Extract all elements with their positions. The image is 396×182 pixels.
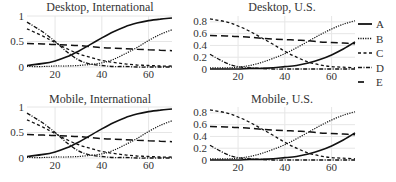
y-tick-label: 1: [19, 10, 25, 22]
panel-1: Desktop, International20406000.51: [10, 0, 172, 80]
panel-title: Desktop, International: [46, 0, 154, 14]
series-B-line: [210, 112, 355, 159]
y-tick-label: 0: [19, 61, 25, 73]
y-tick-label: 0.8: [193, 15, 207, 27]
legend-item-D: D: [358, 62, 384, 74]
legend-label: B: [376, 33, 383, 45]
series-B-line: [210, 21, 355, 68]
legend-label: D: [376, 62, 384, 74]
legend-item-A: A: [358, 18, 384, 30]
x-tick-label: 60: [143, 159, 155, 171]
series-E-line: [27, 135, 172, 142]
y-tick-label: 0: [202, 63, 208, 75]
y-tick-label: 0.2: [193, 51, 207, 63]
y-tick-label: 0.5: [10, 126, 24, 138]
panel-title: Mobile, International: [49, 92, 152, 106]
panel-4: Mobile, U.S.20406000.20.40.60.8: [193, 92, 355, 173]
y-tick-label: 0.2: [193, 142, 207, 154]
x-tick-label: 20: [50, 68, 62, 80]
x-tick-label: 60: [326, 161, 338, 173]
y-tick-label: 0.8: [193, 106, 207, 118]
x-tick-label: 40: [96, 159, 108, 171]
x-tick-label: 20: [50, 159, 62, 171]
legend-item-E: E: [358, 76, 383, 88]
x-tick-label: 20: [233, 70, 245, 82]
y-tick-label: 0.5: [10, 35, 24, 47]
y-tick-label: 0.6: [193, 27, 207, 39]
series-E-line: [27, 44, 172, 51]
series-E-line: [210, 126, 355, 134]
series-C-line: [210, 19, 355, 68]
y-tick-label: 0: [202, 154, 208, 166]
legend-label: C: [376, 47, 383, 59]
x-tick-label: 40: [96, 68, 108, 80]
y-tick-label: 0: [19, 152, 25, 164]
panel-title: Desktop, U.S.: [248, 0, 315, 14]
x-tick-label: 40: [279, 161, 291, 173]
legend: ABCDE: [358, 18, 384, 88]
panel-3: Mobile, International20406000.51: [10, 92, 172, 171]
y-tick-label: 0.6: [193, 118, 207, 130]
series-E-line: [210, 35, 355, 43]
x-tick-label: 20: [233, 161, 245, 173]
legend-label: E: [376, 76, 383, 88]
legend-item-B: B: [358, 33, 383, 45]
y-tick-label: 1: [19, 101, 25, 113]
chart-figure: Desktop, International20406000.51Desktop…: [0, 0, 396, 182]
x-tick-label: 60: [326, 70, 338, 82]
y-tick-label: 0.4: [193, 39, 207, 51]
series-C-line: [210, 110, 355, 159]
panel-title: Mobile, U.S.: [251, 92, 313, 106]
x-tick-label: 60: [143, 68, 155, 80]
x-tick-label: 40: [279, 70, 291, 82]
legend-item-C: C: [358, 47, 383, 59]
panel-2: Desktop, U.S.20406000.20.40.60.8: [193, 0, 355, 82]
y-tick-label: 0.4: [193, 130, 207, 142]
legend-label: A: [376, 18, 384, 30]
